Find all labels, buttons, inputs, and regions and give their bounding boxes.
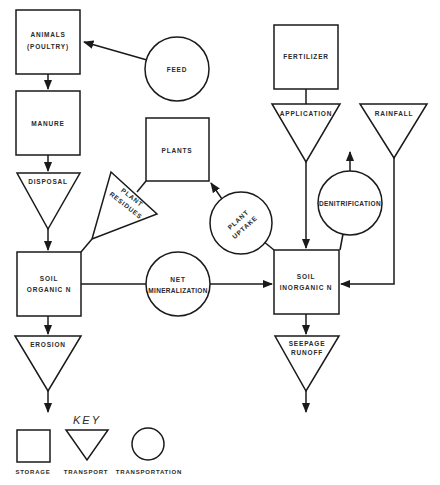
denitrification-label: DENITRIFICATION — [319, 200, 381, 207]
soil-inorganic-label-line2: INORGANIC N — [280, 284, 333, 291]
edge-uptake-plants — [211, 183, 222, 199]
animals-label-line1: ANIMALS — [30, 31, 65, 38]
seepage-runoff-label-line2: RUNOFF — [291, 349, 323, 356]
storage-box — [17, 252, 81, 316]
node-denitrification: DENITRIFICATION — [318, 171, 382, 235]
node-feed: FEED — [145, 37, 209, 101]
node-fertilizer: FERTILIZER — [274, 25, 338, 89]
manure-label: MANURE — [31, 120, 64, 127]
storage-box — [274, 250, 339, 314]
key-transport-label: TRANSPORT — [64, 469, 109, 475]
edge-plants-residues — [137, 181, 146, 192]
node-soil-inorganic-n: SOIL INORGANIC N — [274, 250, 339, 314]
net-mineralization-label-line2: MINERALIZATION — [148, 287, 207, 294]
node-plant-residues: PLANT RESIDUES — [92, 172, 157, 239]
fertilizer-label: FERTILIZER — [283, 53, 329, 60]
rainfall-label: RAINFALL — [375, 110, 414, 117]
soil-organic-label-line1: SOIL — [40, 275, 58, 282]
soil-inorganic-label-line1: SOIL — [297, 273, 315, 280]
storage-box — [16, 10, 80, 74]
key-title: KEY — [73, 414, 101, 426]
node-soil-organic-n: SOIL ORGANIC N — [17, 252, 81, 316]
edge-residues-soil-organic — [81, 239, 92, 252]
node-animals: ANIMALS (POULTRY) — [16, 10, 80, 74]
node-manure: MANURE — [16, 91, 80, 155]
transformation-circle — [146, 252, 210, 316]
node-seepage-runoff: SEEPAGE RUNOFF — [275, 336, 339, 391]
node-disposal: DISPOSAL — [17, 173, 80, 229]
transformation-circle — [210, 192, 272, 254]
nitrogen-flow-diagram: ANIMALS (POULTRY) FEED MANURE PLANTS FER… — [0, 0, 440, 485]
feed-label: FEED — [167, 66, 188, 73]
animals-label-line2: (POULTRY) — [27, 43, 69, 51]
node-erosion: EROSION — [15, 336, 81, 391]
node-plant-uptake: PLANT UPTAKE — [210, 192, 272, 254]
node-net-mineralization: NET MINERALIZATION — [146, 252, 210, 316]
plants-label: PLANTS — [162, 147, 193, 154]
node-plants: PLANTS — [146, 118, 209, 181]
key-storage-icon — [17, 430, 50, 462]
application-label: APPLICATION — [280, 110, 332, 117]
node-application: APPLICATION — [272, 104, 340, 162]
edge-soil-inorganic-denitrification — [340, 234, 343, 250]
key-transformation-label: TRANSPORTATION — [116, 469, 182, 475]
erosion-label: EROSION — [30, 341, 66, 348]
soil-organic-label-line2: ORGANIC N — [27, 286, 71, 293]
legend-key: KEY STORAGE TRANSPORT TRANSPORTATION — [15, 414, 182, 475]
key-transport-icon — [66, 430, 108, 460]
seepage-runoff-label-line1: SEEPAGE — [289, 340, 326, 347]
node-rainfall: RAINFALL — [360, 104, 427, 158]
key-transformation-icon — [132, 428, 164, 460]
disposal-label: DISPOSAL — [28, 178, 68, 185]
key-storage-label: STORAGE — [15, 469, 50, 475]
net-mineralization-label-line1: NET — [170, 276, 185, 283]
edge-feed-animals — [84, 42, 147, 60]
